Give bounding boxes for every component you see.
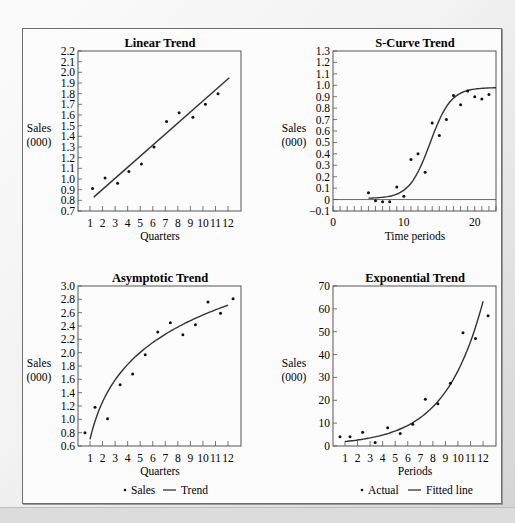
data-point — [374, 441, 377, 444]
y-tick-label: 60 — [319, 303, 331, 315]
y-axis-label-line2: (000) — [282, 371, 307, 384]
x-tick-label: 5 — [392, 452, 398, 464]
x-tick-label: 2 — [100, 217, 106, 229]
data-point — [367, 191, 370, 194]
x-tick-label: 11 — [210, 217, 221, 229]
y-tick-label: 40 — [319, 349, 331, 361]
y-tick-label: 1.3 — [316, 45, 331, 57]
y-tick-label: 1.2 — [316, 56, 331, 68]
legend-line-label: Fitted line — [426, 484, 473, 496]
chart-s-curve-trend: S-Curve Trend Sales (000) Time periods 1… — [282, 36, 496, 243]
x-tick-label: 10 — [197, 452, 209, 464]
x-tick-label: 3 — [112, 217, 118, 229]
data-point — [466, 90, 469, 93]
x-tick-label: 4 — [380, 452, 386, 464]
legend-line-label: Trend — [181, 484, 208, 496]
data-point — [116, 182, 119, 185]
x-tick-label: 5 — [137, 217, 143, 229]
data-point — [395, 186, 398, 189]
y-tick-label: 0.3 — [316, 159, 331, 171]
y-tick-label: 2.2 — [61, 333, 76, 345]
x-tick-label: 6 — [405, 452, 411, 464]
y-axis-label-line2: (000) — [27, 136, 52, 149]
x-tick-label: 8 — [430, 452, 436, 464]
y-axis-label-line1: Sales — [282, 357, 307, 369]
x-tick-label: 12 — [222, 217, 234, 229]
x-tick-label: 0 — [330, 216, 336, 228]
x-axis-label: Periods — [398, 465, 433, 477]
x-tick-label: 1 — [342, 452, 348, 464]
chart-exponential-trend: Exponential Trend Sales (000) Periods Ac… — [282, 271, 496, 496]
data-point — [445, 118, 448, 121]
data-point — [431, 122, 434, 125]
x-tick-label: 4 — [125, 217, 131, 229]
legend-marker-icon — [124, 489, 127, 492]
x-tick-label: 8 — [175, 452, 181, 464]
y-tick-label: 2.8 — [61, 293, 76, 305]
x-axis-label: Time periods — [385, 230, 446, 243]
data-point — [156, 331, 159, 334]
data-point — [204, 103, 207, 106]
data-point — [361, 431, 364, 434]
x-tick-label: 20 — [469, 216, 481, 228]
x-tick-label: 7 — [417, 452, 423, 464]
data-point — [487, 314, 490, 317]
y-axis-label-line1: Sales — [27, 122, 52, 134]
data-point — [436, 402, 439, 405]
y-tick-label: 0.5 — [316, 136, 331, 148]
data-point — [131, 373, 134, 376]
data-point — [94, 406, 97, 409]
chart-title: Linear Trend — [125, 36, 196, 50]
x-tick-label: 9 — [443, 452, 449, 464]
data-point — [381, 200, 384, 203]
data-point — [473, 95, 476, 98]
data-point — [411, 423, 414, 426]
data-point — [140, 163, 143, 166]
x-tick-label: 6 — [150, 217, 156, 229]
x-tick-label: 10 — [452, 452, 464, 464]
legend-marker-label: Sales — [131, 484, 156, 496]
x-tick-label: 2 — [355, 452, 361, 464]
y-tick-label: 0 — [324, 194, 330, 206]
y-tick-label: 0.1 — [316, 182, 331, 194]
data-point — [83, 431, 86, 434]
y-tick-label: −0.1 — [309, 205, 330, 217]
y-tick-label: 3.0 — [61, 280, 76, 292]
x-tick-label: 9 — [188, 217, 194, 229]
data-point — [91, 187, 94, 190]
y-tick-label: 1.1 — [316, 68, 331, 80]
x-axis-label: Quarters — [140, 465, 180, 477]
x-tick-label: 8 — [175, 217, 181, 229]
data-point — [338, 435, 341, 438]
legend-marker-label: Actual — [368, 484, 399, 496]
x-tick-label: 1 — [87, 217, 93, 229]
trend-line — [345, 301, 483, 441]
chart-title: Asymptotic Trend — [112, 271, 208, 285]
y-tick-label: 0.6 — [316, 125, 331, 137]
y-axis-label-line2: (000) — [27, 371, 52, 384]
data-point — [409, 158, 412, 161]
data-point — [399, 432, 402, 435]
chart-title: Exponential Trend — [365, 271, 465, 285]
data-point — [349, 435, 352, 438]
x-tick-label: 6 — [150, 452, 156, 464]
data-point — [169, 321, 172, 324]
x-tick-label: 1 — [87, 452, 93, 464]
y-tick-label: 70 — [319, 280, 331, 292]
chart-title: S-Curve Trend — [375, 36, 455, 50]
data-point — [438, 134, 441, 137]
x-tick-label: 10 — [197, 217, 209, 229]
data-point — [452, 94, 455, 97]
data-point — [217, 92, 220, 95]
data-point — [459, 103, 462, 106]
data-point — [178, 111, 181, 114]
data-point — [106, 417, 109, 420]
x-tick-label: 3 — [112, 452, 118, 464]
y-axis-label-line1: Sales — [282, 122, 307, 134]
data-point — [206, 301, 209, 304]
y-tick-label: 0.9 — [316, 91, 331, 103]
y-tick-label: 30 — [319, 371, 331, 383]
x-tick-label: 2 — [100, 452, 106, 464]
data-point — [424, 398, 427, 401]
